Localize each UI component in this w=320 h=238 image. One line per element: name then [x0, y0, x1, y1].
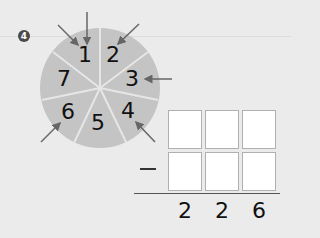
minus-sign — [140, 168, 156, 170]
digit-input-box[interactable] — [205, 110, 239, 149]
sector-label: 5 — [91, 110, 105, 135]
subtraction-grid — [168, 110, 276, 191]
digit-input-box[interactable] — [205, 152, 239, 191]
sector-label: 7 — [57, 66, 71, 91]
sector-label: 3 — [125, 66, 139, 91]
sector-label: 1 — [78, 42, 92, 67]
digit-input-box[interactable] — [242, 152, 276, 191]
result-digit: 6 — [242, 198, 276, 223]
dart-arrow-icon — [41, 123, 60, 142]
digit-input-box[interactable] — [242, 110, 276, 149]
digit-input-box[interactable] — [168, 110, 202, 149]
sector-label: 4 — [121, 98, 135, 123]
digit-input-box[interactable] — [168, 152, 202, 191]
result-digit: 2 — [168, 198, 202, 223]
sector-label: 6 — [61, 99, 75, 124]
sector-label: 2 — [106, 42, 120, 67]
result-rule — [134, 193, 280, 194]
result-digit: 2 — [205, 198, 239, 223]
